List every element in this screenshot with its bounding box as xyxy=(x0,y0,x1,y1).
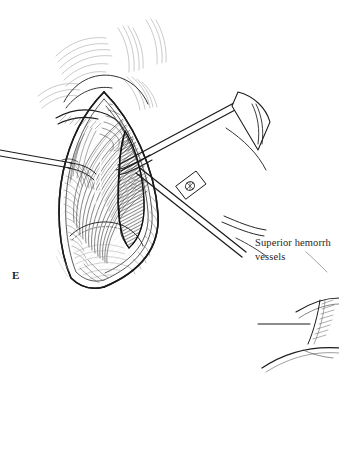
illustration-page: E Superior hemorrh vessels xyxy=(0,0,339,476)
adjacent-cropped-figure xyxy=(0,0,339,476)
